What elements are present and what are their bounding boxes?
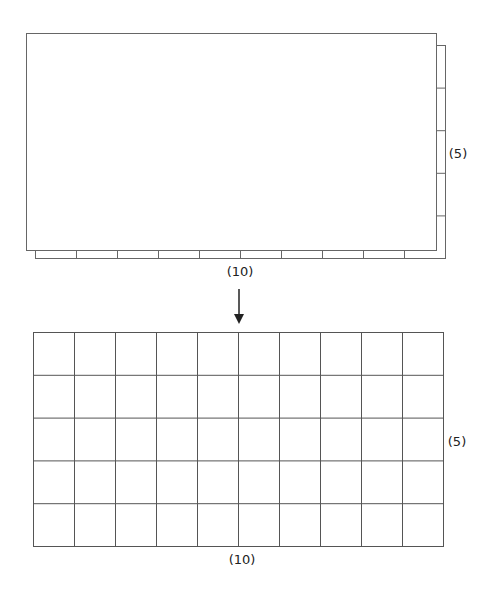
bottom-columns-label: (10) [229, 552, 256, 567]
top-rows-label: (5) [449, 146, 467, 161]
front-rectangle [27, 34, 437, 251]
diagram-canvas [0, 0, 494, 590]
bottom-rows-label: (5) [448, 434, 466, 449]
grid [34, 333, 444, 547]
down-arrow [234, 289, 244, 324]
top-columns-label: (10) [227, 264, 254, 279]
